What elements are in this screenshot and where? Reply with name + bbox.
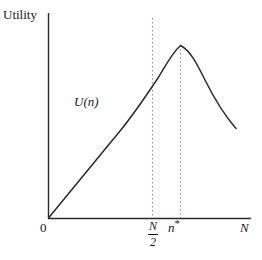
- x-axis-tick-n-star: n*: [168, 221, 180, 234]
- fraction-numerator: N: [148, 220, 158, 233]
- utility-curve-figure: Utility U(n) 0 N 2 n* N: [0, 0, 262, 260]
- x-axis-tick-n: N: [240, 221, 249, 234]
- fraction-half-n: N 2: [148, 220, 158, 248]
- y-axis-title: Utility: [3, 8, 37, 21]
- utility-curve-path: [49, 46, 237, 219]
- fraction-denominator: 2: [148, 236, 158, 249]
- x-axis-tick-half-n: N 2: [145, 220, 161, 248]
- n-star-superscript: *: [175, 217, 181, 229]
- curve-label-u-of-n: U(n): [74, 95, 99, 108]
- x-axis-tick-origin: 0: [40, 221, 47, 234]
